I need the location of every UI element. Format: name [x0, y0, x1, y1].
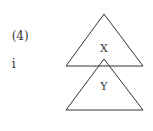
triangle-diagram: X Y — [0, 0, 153, 131]
triangle-y-label: Y — [99, 80, 108, 93]
triangle-x-label: X — [100, 42, 108, 55]
triangle-x — [66, 14, 143, 66]
